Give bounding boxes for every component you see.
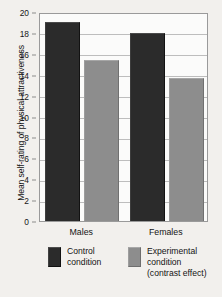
legend-entry: Experimentalcondition(contrast effect) (128, 246, 207, 279)
y-axis-tick-labels: 02468101214161820 (0, 13, 36, 222)
y-axis-tick-label: 18 (20, 30, 29, 38)
legend-label: Experimentalcondition(contrast effect) (147, 246, 207, 279)
bar-males-control (45, 22, 80, 221)
y-axis-tick-mark (32, 33, 36, 34)
y-axis-tick-mark (32, 75, 36, 76)
y-axis-tick-label: 12 (20, 92, 29, 100)
y-axis-tick-mark (32, 13, 36, 14)
y-axis-tick-label: 2 (24, 197, 29, 205)
legend-label-line: condition (67, 257, 101, 268)
y-axis-tick-mark (32, 117, 36, 118)
bar-chart-figure: Mean self-rating of physical attractiven… (0, 0, 222, 297)
y-axis-tick-mark (32, 159, 36, 160)
y-axis-tick-label: 8 (24, 134, 29, 142)
y-axis-tick-label: 6 (24, 155, 29, 163)
legend-label-line: condition (147, 257, 207, 268)
experimental-swatch (128, 247, 141, 267)
y-axis-tick-mark (32, 222, 36, 223)
bar-females-experimental (169, 78, 204, 221)
y-axis-tick-label: 16 (20, 51, 29, 59)
bar-males-experimental (84, 60, 119, 221)
legend-label-line: (contrast effect) (147, 268, 207, 279)
y-axis-tick-label: 20 (20, 9, 29, 17)
legend-label: Controlcondition (67, 246, 101, 268)
legend-label-line: Control (67, 246, 101, 257)
y-axis-tick-label: 0 (24, 218, 29, 226)
legend-label-line: Experimental (147, 246, 207, 257)
y-axis-tick-mark (32, 54, 36, 55)
x-axis-category-label: Males (70, 227, 93, 237)
y-axis-tick-mark (32, 96, 36, 97)
x-axis-category-label: Females (149, 227, 183, 237)
y-axis-tick-label: 4 (24, 176, 29, 184)
chart-legend: ControlconditionExperimentalcondition(co… (0, 246, 222, 297)
y-axis-tick-mark (32, 180, 36, 181)
y-axis-tick-label: 14 (20, 71, 29, 79)
control-swatch (48, 247, 61, 267)
legend-entry: Controlcondition (48, 246, 101, 268)
y-axis-tick-mark (32, 201, 36, 202)
y-axis-tick-label: 10 (20, 113, 29, 121)
y-axis-tick-mark (32, 138, 36, 139)
plot-area (39, 13, 208, 222)
bar-females-control (130, 33, 165, 221)
